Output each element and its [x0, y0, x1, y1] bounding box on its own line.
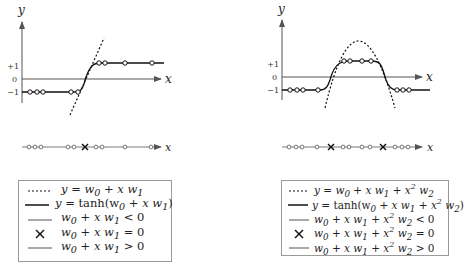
right-tanh-curve	[282, 61, 430, 90]
gray-line-icon	[288, 218, 310, 222]
left-plot: y x +1 0 −1 x	[7, 3, 172, 154]
left-legend: y = w0 + x w1 y = tanh(w0 + x w1) w0 + x…	[18, 180, 172, 262]
left-tick-0: 0	[12, 75, 17, 84]
right-tick-minus1: −1	[267, 86, 279, 95]
cross-icon	[288, 229, 310, 239]
left-number-line-label: x	[165, 141, 172, 154]
right-x-axis-label: x	[426, 70, 433, 84]
right-plot: y x +1 0 −1 x	[267, 2, 434, 154]
legend-item-positive: w0 + x w1 > 0	[25, 241, 165, 255]
right-tick-0: 0	[272, 73, 277, 82]
left-tanh-curve	[22, 63, 164, 92]
right-y-axis-label: y	[277, 2, 285, 16]
left-tick-minus1: −1	[7, 88, 19, 97]
solid-line-icon	[288, 203, 308, 207]
left-linear-dotted-line	[70, 38, 104, 115]
right-legend: y = w0 + x w1 + x2 w2 y = tanh(w0 + x w1…	[281, 180, 449, 256]
right-number-line-label: x	[427, 141, 434, 154]
right-tick-plus1: +1	[267, 60, 279, 69]
gray-line-icon	[25, 218, 55, 222]
dotted-line-icon	[288, 189, 310, 193]
left-y-axis-label: y	[17, 3, 25, 17]
gray-line-icon	[288, 246, 310, 250]
gray-line-icon	[25, 246, 55, 250]
solid-line-icon	[25, 203, 49, 207]
left-x-axis-label: x	[165, 72, 172, 86]
cross-icon	[25, 229, 55, 239]
legend-item-positive: w0 + x w1 + x2 w2 > 0	[288, 241, 442, 255]
left-tick-plus1: +1	[7, 62, 19, 71]
dotted-line-icon	[25, 189, 55, 193]
